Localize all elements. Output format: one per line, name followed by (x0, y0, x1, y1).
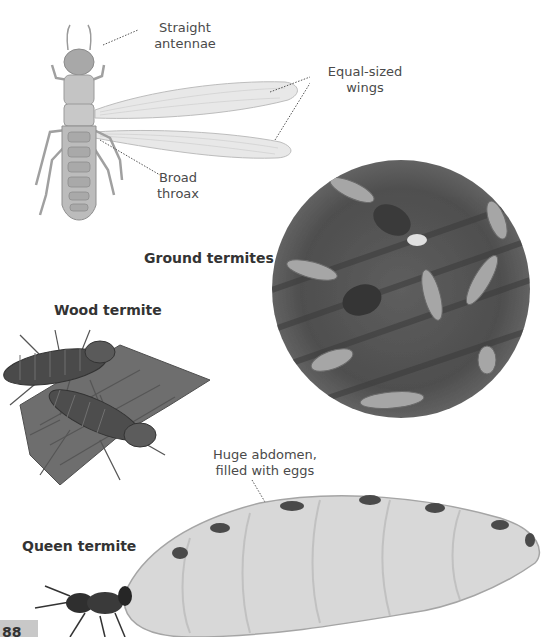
queen-termite-illustration (30, 478, 548, 637)
wood-termite-heading: Wood termite (54, 302, 162, 318)
label-straight-antennae: Straight antennae (140, 20, 230, 52)
ground-termites-illustration (272, 160, 530, 418)
label-broad-thorax: Broad throax (148, 170, 208, 202)
ground-termites-scene (272, 160, 530, 418)
wood-termite-illustration (0, 325, 220, 485)
ground-termites-heading: Ground termites (144, 250, 274, 266)
page-number: 88 (0, 620, 38, 637)
label-huge-abdomen: Huge abdomen, filled with eggs (200, 447, 330, 479)
label-equal-sized-wings: Equal-sized wings (310, 64, 420, 96)
